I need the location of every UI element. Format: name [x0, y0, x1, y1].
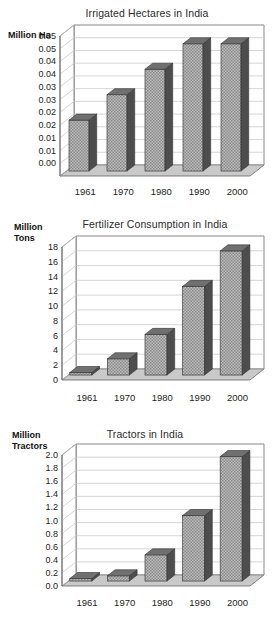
x-axis-tick-label: 1970 — [114, 392, 135, 403]
chart-panel-fertilizer-consumption: Fertilizer Consumption in India Million … — [0, 206, 276, 414]
y-axis-tick-label: 1.4 — [45, 489, 58, 499]
bar-1980 — [145, 549, 175, 581]
y-axis-tick-label: 16 — [48, 257, 58, 267]
chart-canvas — [0, 414, 276, 624]
plot-area: 2.01.81.61.41.21.00.80.60.40.20.01961197… — [0, 414, 276, 624]
x-axis-tick-label: 1961 — [75, 186, 96, 197]
bar-1970 — [107, 353, 137, 375]
y-axis-tick-label: 0 — [53, 375, 58, 385]
x-axis-tick-label: 1990 — [189, 597, 210, 608]
plot-area: 18161412108642019611970198019902000 — [0, 206, 276, 414]
x-axis-tick-label: 1990 — [189, 186, 210, 197]
x-axis-tick-label: 2000 — [227, 186, 248, 197]
x-axis-tick-label: 1961 — [77, 597, 98, 608]
bar-1961 — [69, 114, 97, 171]
y-axis-tick-label: 0.4 — [45, 555, 58, 565]
bar-1970 — [107, 89, 135, 171]
x-axis-tick-label: 1970 — [113, 186, 134, 197]
x-axis-tick-label: 1961 — [77, 392, 98, 403]
x-axis-tick-label: 2000 — [227, 392, 248, 403]
bar-1990 — [183, 280, 213, 375]
y-axis-tick-label: 0.04 — [38, 69, 56, 79]
x-axis-tick-label: 2000 — [227, 597, 248, 608]
x-axis-tick-label: 1980 — [152, 392, 173, 403]
y-axis-tick-label: 10 — [48, 301, 58, 311]
bar-1990 — [183, 38, 211, 171]
y-axis-tick-label: 12 — [48, 286, 58, 296]
y-axis-tick-label: 0.00 — [38, 158, 56, 168]
plot-area: 0.050.050.040.040.030.030.020.020.010.01… — [0, 0, 276, 206]
bar-2000 — [220, 451, 250, 582]
chart-panel-irrigated-hectares: Irrigated Hectares in India Million Ha 0… — [0, 0, 276, 206]
y-axis-tick-label: 1.2 — [45, 502, 58, 512]
y-axis-tick-label: 18 — [48, 242, 58, 252]
chart-panel-tractors: Tractors in India Million Tractors 2.01.… — [0, 414, 276, 624]
y-axis-tick-label: 0.2 — [45, 568, 58, 578]
y-axis-tick-label: 0.05 — [38, 31, 56, 41]
y-axis-tick-label: 2 — [53, 360, 58, 370]
y-axis-tick-label: 0.02 — [38, 107, 56, 117]
x-axis-tick-label: 1980 — [152, 597, 173, 608]
y-axis-tick-label: 0.02 — [38, 120, 56, 130]
y-axis-tick-label: 0.03 — [38, 82, 56, 92]
y-axis-tick-label: 1.6 — [45, 476, 58, 486]
y-axis-tick-label: 1.0 — [45, 516, 58, 526]
y-axis-tick-label: 0.03 — [38, 95, 56, 105]
bar-1980 — [145, 63, 173, 171]
bar-2000 — [221, 38, 249, 171]
y-axis-tick-label: 2.0 — [45, 450, 58, 460]
x-axis-tick-label: 1980 — [151, 186, 172, 197]
x-axis-tick-label: 1990 — [189, 392, 210, 403]
bar-1980 — [145, 328, 175, 375]
y-axis-tick-label: 0.0 — [45, 581, 58, 591]
y-axis-tick-label: 0.01 — [38, 146, 56, 156]
y-axis-tick-label: 0.01 — [38, 133, 56, 143]
y-axis-tick-label: 4 — [53, 345, 58, 355]
y-axis-tick-label: 0.8 — [45, 529, 58, 539]
x-axis-tick-label: 1970 — [114, 597, 135, 608]
y-axis-tick-label: 14 — [48, 272, 58, 282]
y-axis-tick-label: 0.04 — [38, 56, 56, 66]
y-axis-tick-label: 8 — [53, 316, 58, 326]
bar-2000 — [220, 245, 250, 375]
bar-1990 — [183, 510, 213, 582]
chart-canvas — [0, 206, 276, 414]
y-axis-tick-label: 1.8 — [45, 463, 58, 473]
y-axis-tick-label: 0.6 — [45, 542, 58, 552]
y-axis-tick-label: 0.05 — [38, 44, 56, 54]
y-axis-tick-label: 6 — [53, 331, 58, 341]
